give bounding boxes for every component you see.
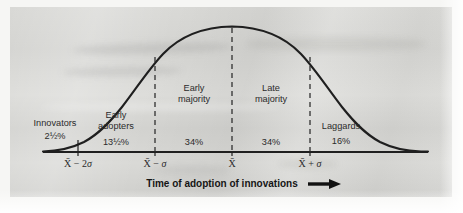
segment-percent-early-adopters: 13½% [103, 137, 129, 147]
segment-label-early-adopters-line1: Early [106, 110, 127, 120]
arrow-right-icon [308, 179, 341, 189]
axis-caption: Time of adoption of innovations [146, 178, 298, 189]
tick-op-3: + [306, 158, 317, 169]
segment-percent-late-majority: 34% [262, 137, 280, 147]
tick-sigma-1: σ [161, 158, 167, 169]
segment-label-laggards: Laggards [322, 121, 361, 131]
adoption-curve-chart: Innovators 2½% Early adopters 13½% Early… [0, 0, 463, 213]
tick-op-0: − 2 [71, 158, 87, 169]
tick-op-1: − [151, 158, 162, 169]
tick-sigma-0: σ [87, 158, 93, 169]
segment-label-late-majority-line1: Late [262, 83, 280, 93]
axis-tick-label-x-minus-2sigma: X̄ − 2σ [64, 158, 93, 169]
segment-percent-early-majority: 34% [185, 137, 203, 147]
axis-tick-label-x-plus-sigma: X̄ + σ [299, 158, 323, 169]
segment-label-early-majority-line2: majority [178, 94, 211, 104]
axis-tick-label-x-minus-sigma: X̄ − σ [144, 158, 168, 169]
segment-label-innovators: Innovators [34, 118, 77, 128]
bell-curve-path [43, 27, 428, 152]
segment-label-early-adopters-line2: adopters [98, 121, 134, 131]
segment-percent-laggards: 16% [332, 136, 350, 146]
scanned-page: Innovators 2½% Early adopters 13½% Early… [0, 0, 463, 213]
segment-percent-innovators: 2½% [45, 131, 66, 141]
axis-tick-label-x-mean: X̄ [228, 158, 236, 169]
tick-sigma-3: σ [316, 158, 322, 169]
segment-label-late-majority-line2: majority [255, 94, 288, 104]
tick-base-2: X̄ [228, 158, 236, 169]
segment-label-early-majority-line1: Early [184, 83, 205, 93]
